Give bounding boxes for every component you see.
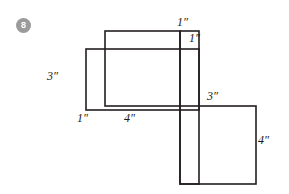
net-outline-group bbox=[86, 31, 256, 184]
dimension-label-left-3in: 3″ bbox=[47, 69, 58, 83]
top-rectangle bbox=[105, 31, 180, 106]
dimension-label-bottom-left-1in: 1″ bbox=[77, 111, 88, 125]
problem-number-badge: 8 bbox=[16, 18, 31, 33]
left-rectangle bbox=[86, 49, 199, 110]
dimension-label-far-right-4in: 4″ bbox=[258, 133, 269, 147]
vertical-strip-rectangle bbox=[180, 31, 199, 184]
dimension-label-top-right-1in: 1″ bbox=[177, 15, 188, 29]
dimension-label-bottom-4in: 4″ bbox=[124, 111, 135, 125]
bottom-square bbox=[180, 106, 256, 184]
dimension-label-upper-right-1in: 1″ bbox=[189, 31, 200, 45]
net-diagram-svg bbox=[0, 0, 289, 194]
net-diagram-figure: 8 1″ 1″ 3″ 1″ 4″ 3″ 4″ bbox=[0, 0, 289, 194]
dimension-label-right-3in: 3″ bbox=[207, 89, 218, 103]
